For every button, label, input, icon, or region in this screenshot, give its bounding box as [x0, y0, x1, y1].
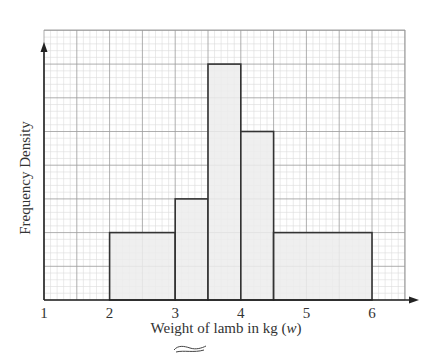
- decorative-squiggle-icon: [174, 346, 206, 352]
- y-axis-title: Frequency Density: [17, 121, 33, 235]
- x-axis-arrow-icon: [409, 297, 419, 304]
- histogram-bar-3.5-4: [208, 64, 241, 300]
- histogram-bar-4-4.5: [241, 132, 274, 301]
- x-tick-label: 6: [368, 305, 376, 321]
- x-tick-label: 5: [303, 305, 311, 321]
- x-tick-label: 3: [171, 305, 179, 321]
- y-axis-arrow-icon: [41, 42, 48, 52]
- histogram-bar-4.5-6: [274, 233, 372, 300]
- x-tick-label: 4: [237, 305, 245, 321]
- histogram-bar-2-3: [110, 233, 176, 300]
- histogram-chart: 123456 Weight of lamb in kg (w) Frequenc…: [0, 0, 435, 356]
- x-tick-label: 2: [106, 305, 114, 321]
- x-axis-title: Weight of lamb in kg (w): [151, 320, 302, 337]
- x-tick-labels: 123456: [40, 305, 376, 321]
- x-tick-label: 1: [40, 305, 48, 321]
- histogram-bar-3-3.5: [175, 199, 208, 300]
